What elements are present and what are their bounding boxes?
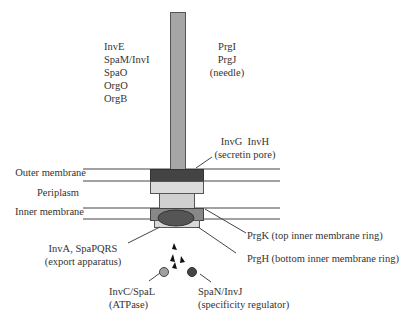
export-labels: InvA, SpaPQRS (export apparatus) (38, 242, 128, 268)
label-atpase: (ATPase) (109, 298, 155, 311)
label-invg-invh: InvG InvH (210, 135, 280, 148)
label-needle: (needle) (202, 66, 252, 79)
label-orgo: OrgO (104, 79, 150, 92)
triangle-icon (172, 262, 177, 269)
regulator-pointer (200, 274, 211, 282)
label-prgi: PrgI (202, 40, 252, 53)
label-export-apparatus: (export apparatus) (38, 255, 128, 268)
label-periplasm: Periplasm (37, 186, 79, 199)
label-span-invj: SpaN/InvJ (198, 285, 289, 298)
regulator-labels: SpaN/InvJ (specificity regulator) (198, 285, 289, 311)
secretin-ring (151, 170, 204, 182)
label-spam: SpaM/InvI (104, 53, 150, 66)
label-inve: InvE (104, 40, 150, 53)
effector-triangles (170, 243, 185, 269)
needle-left-labels: InvE SpaM/InvI SpaO OrgO OrgB (104, 40, 150, 105)
label-inva-spapqrs: InvA, SpaPQRS (38, 242, 128, 255)
triangle-icon (172, 243, 177, 250)
atpase-pointer (149, 273, 160, 281)
label-orgb: OrgB (104, 92, 150, 105)
export-apparatus-oval (158, 210, 194, 226)
label-prgk: PrgK (top inner membrane ring) (247, 229, 383, 242)
label-outer-membrane: Outer membrane (0, 166, 86, 179)
triangle-icon (170, 254, 175, 262)
export-pointer (128, 227, 160, 243)
label-inner-membrane: Inner membrane (0, 205, 84, 218)
secretin-lower-ring (151, 182, 204, 194)
t3ss-diagram: InvE SpaM/InvI SpaO OrgO OrgB PrgI PrgJ … (0, 0, 415, 325)
needle-right-labels: PrgI PrgJ (needle) (202, 40, 252, 79)
triangle-icon (180, 256, 185, 263)
periplasm-rod (160, 194, 195, 209)
secretin-labels: InvG InvH (secretin pore) (210, 135, 280, 161)
label-specificity-regulator: (specificity regulator) (198, 298, 289, 311)
atpase-circle (160, 268, 169, 277)
prgh-pointer (198, 227, 236, 253)
label-invc-spal: InvC/SpaL (109, 285, 155, 298)
label-prgj: PrgJ (202, 53, 252, 66)
label-secretin-pore: (secretin pore) (210, 148, 280, 161)
label-prgh: PrgH (bottom inner membrane ring) (247, 252, 399, 265)
needle-shaft (171, 13, 186, 170)
regulator-circle (188, 268, 197, 277)
atpase-labels: InvC/SpaL (ATPase) (109, 285, 155, 311)
label-spao: SpaO (104, 66, 150, 79)
prgk-pointer (205, 209, 246, 233)
